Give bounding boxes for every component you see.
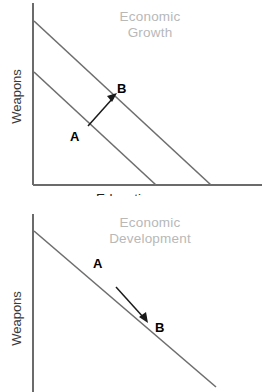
development-chart-title: Economic Development — [80, 215, 220, 247]
development-y-axis-label: Weapons — [9, 279, 24, 359]
growth-point-b-label: B — [117, 81, 126, 96]
growth-point-a-label: A — [70, 129, 79, 144]
development-point-a-label: A — [93, 256, 102, 271]
development-frontier — [34, 231, 216, 387]
growth-frontier-b — [34, 21, 211, 185]
growth-y-axis-label: Weapons — [9, 57, 24, 137]
growth-shift-arrow — [88, 93, 117, 126]
growth-frontier-a — [34, 72, 156, 185]
development-point-b-label: B — [155, 320, 164, 335]
economic-development-chart: Economic Development Weapons A B — [0, 196, 268, 392]
growth-chart-title: Economic Growth — [86, 9, 214, 41]
economic-growth-chart: Economic Growth Weapons A B Education — [0, 0, 268, 196]
